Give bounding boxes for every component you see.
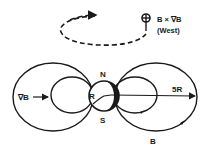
field-line-right-outer [115,63,197,131]
distance-label: 5R [172,85,182,94]
drift-orbit [61,15,146,45]
radius-arrow [111,95,195,96]
north-label: N [100,70,106,79]
drift-direction-icon [142,14,150,31]
drift-direction-label: (West) [157,26,180,35]
south-label: S [100,116,106,125]
field-label: B [150,137,156,146]
field-line-left-inner [51,77,93,113]
earth-radius-label: R [89,92,95,101]
drift-label: B × ∇B [157,15,182,24]
grad-b-label: ∇B [17,93,29,102]
magnetic-dipole-diagram: B × ∇B (West) ∇B N S R 5R B [0,0,209,151]
